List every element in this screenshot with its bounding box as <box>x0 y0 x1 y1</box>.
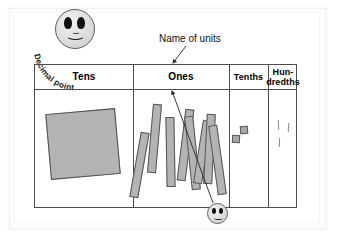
arrow-name-of-units <box>173 46 186 63</box>
smiley-face <box>207 203 228 224</box>
decimal-point-marker-smiley <box>207 203 228 224</box>
smiley-right-eye <box>219 208 223 214</box>
arrow-overlay <box>0 0 337 243</box>
smiley-mouth <box>213 215 224 220</box>
diagram-canvas: Decimal point Name of units Tens Ones Te… <box>0 0 337 243</box>
arrow-decimal-point <box>172 91 213 203</box>
smiley-left-eye <box>212 208 216 214</box>
